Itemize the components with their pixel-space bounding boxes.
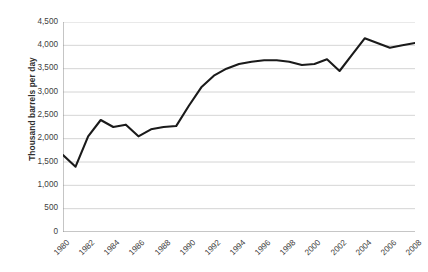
x-axis-tick-label: 2008 xyxy=(396,238,424,266)
plot-area xyxy=(63,22,415,232)
x-axis-tick-label: 1980 xyxy=(44,238,72,266)
x-axis-tick-label: 1982 xyxy=(69,238,97,266)
x-axis-tick-label: 2002 xyxy=(320,238,348,266)
plot-svg xyxy=(63,22,415,232)
x-axis-tick-label: 1988 xyxy=(144,238,172,266)
x-axis-tick-label: 2006 xyxy=(371,238,399,266)
x-axis-tick-label: 2000 xyxy=(295,238,323,266)
x-axis-tick-label: 1996 xyxy=(245,238,273,266)
x-axis-tick-label: 2004 xyxy=(345,238,373,266)
y-axis-tick-label: 4,500 xyxy=(18,18,58,26)
y-axis-tick-label: 3,000 xyxy=(18,88,58,96)
y-axis-tick-label: 3,500 xyxy=(18,64,58,72)
x-axis-tick-labels: 1980198219841986198819901992199419961998… xyxy=(63,232,415,272)
x-axis-tick-label: 1998 xyxy=(270,238,298,266)
y-axis-tick-label: 1,500 xyxy=(18,158,58,166)
y-axis-tick-label: 1,000 xyxy=(18,181,58,189)
x-axis-tick-label: 1984 xyxy=(94,238,122,266)
x-axis-tick-label: 1994 xyxy=(220,238,248,266)
x-axis-tick-label: 1986 xyxy=(119,238,147,266)
x-axis-tick-label: 1992 xyxy=(195,238,223,266)
y-axis-tick-label: 2,000 xyxy=(18,134,58,142)
line-chart: Thousand barrels per day 05001,0001,5002… xyxy=(0,0,428,272)
y-axis-tick-label: 500 xyxy=(18,204,58,212)
x-axis-tick-label: 1990 xyxy=(169,238,197,266)
y-axis-tick-label: 2,500 xyxy=(18,111,58,119)
y-axis-tick-label: 4,000 xyxy=(18,41,58,49)
y-axis-tick-label: 0 xyxy=(18,228,58,236)
data-series-line xyxy=(63,38,415,166)
